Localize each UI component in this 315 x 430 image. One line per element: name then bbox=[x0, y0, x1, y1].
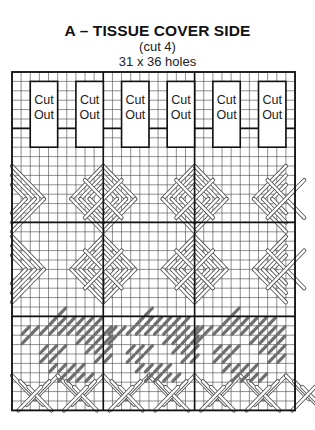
cutout-label-line1: Cut bbox=[126, 93, 146, 107]
cutout-box: CutOut bbox=[30, 81, 57, 147]
cutout-label-line1: Cut bbox=[171, 93, 191, 107]
cutout-box: CutOut bbox=[76, 81, 103, 147]
cutout-label-line2: Out bbox=[80, 108, 101, 122]
cutout-box: CutOut bbox=[213, 81, 240, 147]
cutout-box: CutOut bbox=[122, 81, 149, 147]
cutout-label-line2: Out bbox=[262, 108, 283, 122]
cutout-box: CutOut bbox=[167, 81, 194, 147]
cutout-label-line1: Cut bbox=[217, 93, 237, 107]
cutout-label-line1: Cut bbox=[80, 93, 100, 107]
cutout-label-line2: Out bbox=[216, 108, 237, 122]
cutout-box: CutOut bbox=[259, 81, 286, 147]
cutout-label-line1: Cut bbox=[34, 93, 54, 107]
cutout-label-line2: Out bbox=[125, 108, 146, 122]
cutout-label-line1: Cut bbox=[262, 93, 282, 107]
cutout-label-line2: Out bbox=[171, 108, 192, 122]
stitch-chart-grid: CutOutCutOutCutOutCutOutCutOutCutOut bbox=[0, 0, 315, 430]
cutout-label-line2: Out bbox=[34, 108, 55, 122]
